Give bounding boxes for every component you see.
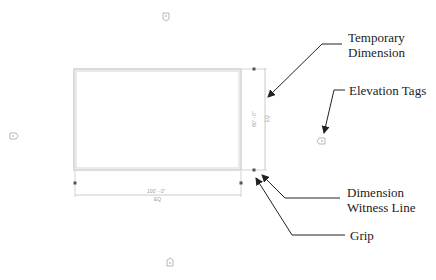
callout-witness-line-line2: Witness Line: [347, 200, 415, 215]
callout-temporary-dimension-leader: [268, 44, 342, 97]
elevation-tag-bottom[interactable]: [167, 258, 173, 266]
grip-right[interactable]: [240, 182, 243, 185]
grip-bottom[interactable]: [253, 169, 256, 172]
diagram-canvas: 100' - 0" EQ 60' - 0" EQ Temporary Dimen…: [0, 0, 436, 280]
callout-grip-leader: [256, 178, 345, 235]
callout-temporary-dimension: Temporary Dimension: [348, 30, 405, 60]
callout-elevation-tags-line1: Elevation Tags: [349, 83, 426, 98]
elevation-tag-top[interactable]: [163, 13, 169, 21]
callout-elevation-tags: Elevation Tags: [349, 83, 426, 98]
callout-temporary-dimension-line1: Temporary: [348, 30, 405, 45]
horizontal-dimension-eq[interactable]: EQ: [154, 196, 161, 202]
callout-witness-line-line1: Dimension: [347, 185, 415, 200]
callout-dimension-witness-line: Dimension Witness Line: [347, 185, 415, 215]
elevation-tag-left[interactable]: [10, 133, 18, 139]
vertical-dimension-eq[interactable]: EQ: [264, 115, 270, 122]
room-outline[interactable]: [74, 69, 241, 170]
callout-grip-line1: Grip: [350, 228, 374, 243]
elevation-tag-right[interactable]: [317, 138, 325, 144]
callout-temporary-dimension-line2: Dimension: [348, 45, 405, 60]
vertical-dimension-value[interactable]: 60' - 0": [251, 111, 257, 127]
grip-left[interactable]: [74, 182, 77, 185]
callout-elevation-tags-leader: [324, 90, 345, 133]
grip-top[interactable]: [253, 68, 256, 71]
horizontal-dimension-value[interactable]: 100' - 0": [147, 188, 165, 194]
callout-grip: Grip: [350, 228, 374, 243]
callout-witness-line-leader: [262, 175, 340, 198]
